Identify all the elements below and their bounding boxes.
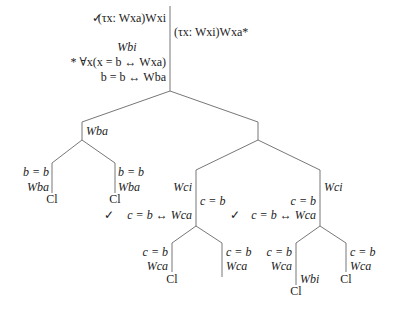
right-branch-identity: c = b [291, 194, 316, 208]
tree-lines [52, 6, 346, 285]
right-biconditional: c = b ↔ Wca [251, 208, 316, 222]
right-leaf-formula-2: Wba [118, 180, 140, 194]
middle-right-leaf-formula-1: c = b [226, 245, 251, 259]
check-icon: ✓ [104, 208, 114, 222]
middle-right-leaf-line [196, 226, 222, 277]
root-formula-1: (τx: Wxa)Wxi [98, 11, 167, 25]
check-icon: ✓ [230, 208, 240, 222]
right-right-leaf-formula-1: c = b [350, 245, 375, 259]
left-leaf-formula-1: b = b [23, 165, 49, 179]
root-formula-4: b = b ↔ Wba [101, 70, 167, 84]
root-right-formula: (τx: Wxi)Wxa* [174, 25, 248, 39]
middle-left-leaf-formula-1: c = b [143, 245, 168, 259]
left-left-leaf-line [52, 140, 82, 193]
right-left-leaf-formula-2: Wca [271, 259, 292, 273]
middle-biconditional: c = b ↔ Wca [127, 208, 192, 222]
middle-branch-identity: c = b [200, 194, 225, 208]
root-formula-2: Wbi [117, 40, 136, 54]
left-right-leaf-line [82, 140, 115, 193]
closed-marker: Cl [46, 192, 58, 206]
right-left-leaf-formula-1: c = b [267, 245, 292, 259]
closed-marker: Cl [109, 192, 121, 206]
root-formula-3: * ∀x(x = b ↔ Wxa) [71, 55, 166, 69]
closed-marker: Cl [290, 284, 302, 298]
middle-right-leaf-formula-2: Wca [226, 259, 247, 273]
middle-branch-label: Wci [173, 180, 192, 194]
right-leaf-formula-1: b = b [118, 165, 144, 179]
right-branch-line [170, 91, 258, 140]
closed-marker: Cl [340, 272, 352, 286]
right-branch-label: Wci [324, 180, 343, 194]
closed-marker: Cl [166, 272, 178, 286]
truth-tree-diagram: ✓ (τx: Wxa)Wxi Wbi * ∀x(x = b ↔ Wxa) b =… [0, 0, 394, 313]
right-left-leaf-extra: Wbi [300, 272, 319, 286]
middle-left-leaf-line [172, 226, 196, 272]
middle-left-leaf-formula-2: Wca [147, 259, 168, 273]
right-right-leaf-formula-2: Wca [350, 259, 371, 273]
middle-branch-line [196, 140, 258, 226]
right-right-leaf-line [320, 226, 346, 272]
left-branch-label: Wba [86, 124, 108, 138]
